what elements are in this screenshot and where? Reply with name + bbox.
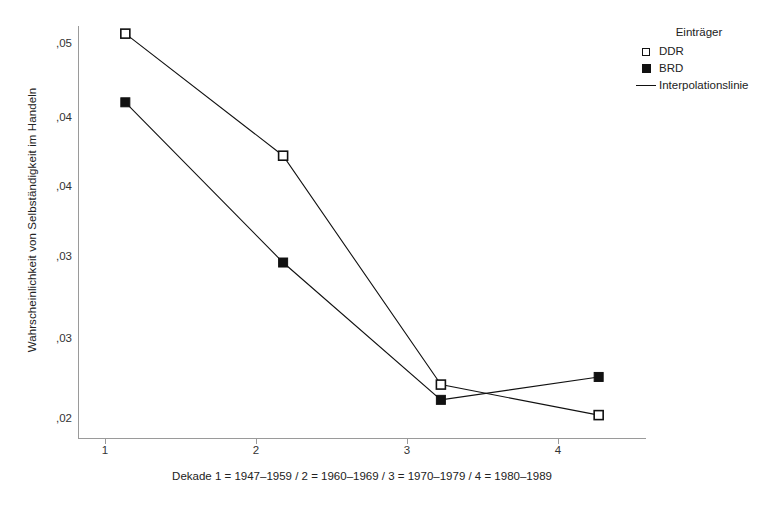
line-marker-icon	[636, 85, 656, 86]
data-point-ddr	[121, 29, 130, 38]
open-square-marker-icon	[636, 48, 656, 56]
series-line-ddr	[125, 34, 598, 415]
legend-item-label: DDR	[656, 45, 684, 58]
series-markers-ddr	[121, 29, 603, 419]
legend-item-ddr: DDR	[636, 45, 776, 58]
legend-item-label: BRD	[656, 62, 683, 75]
filled-square-marker-icon	[636, 64, 656, 73]
legend-item-brd: BRD	[636, 62, 776, 75]
data-point-ddr	[594, 411, 603, 420]
series-markers-brd	[121, 98, 603, 405]
data-point-brd	[121, 98, 130, 107]
data-point-ddr	[436, 380, 445, 389]
chart-container: Wahrscheinlichkeit von Selbständigkeit i…	[0, 0, 777, 512]
data-point-brd	[436, 395, 445, 404]
data-point-ddr	[279, 151, 288, 160]
legend-title: Einträger	[636, 26, 776, 38]
legend-item-label: Interpolationslinie	[656, 79, 749, 92]
legend-item-interpolation-line: Interpolationslinie	[636, 79, 776, 92]
chart-legend: Einträger DDR BRD Interpolationslinie	[636, 26, 776, 96]
series-line-brd	[125, 102, 598, 400]
data-point-brd	[279, 258, 288, 267]
x-axis-caption: Dekade 1 = 1947–1959 / 2 = 1960–1969 / 3…	[78, 470, 646, 482]
data-point-brd	[594, 372, 603, 381]
